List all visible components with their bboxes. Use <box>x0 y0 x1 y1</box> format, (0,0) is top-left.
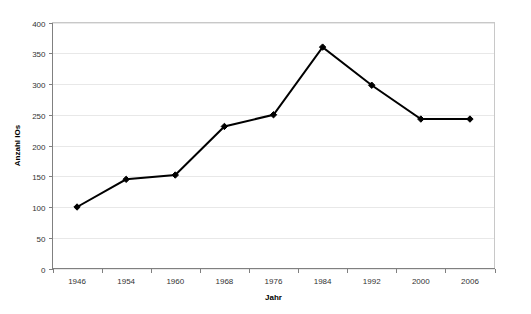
y-axis-tick-label: 300 <box>32 81 46 90</box>
x-axis-tick-label: 1984 <box>314 277 332 286</box>
x-axis-tick-label: 2000 <box>412 277 430 286</box>
y-axis-tick-label: 0 <box>41 266 46 275</box>
chart-background <box>0 0 531 314</box>
x-axis-title: Jahr <box>265 293 282 302</box>
y-axis-tick-label: 100 <box>32 204 46 213</box>
x-axis-tick-label: 1954 <box>117 277 135 286</box>
x-axis-tick-label: 1960 <box>166 277 184 286</box>
y-axis-tick-label: 350 <box>32 50 46 59</box>
x-axis-tick-label: 2006 <box>461 277 479 286</box>
x-axis-tick-labels: 194619541960196819761984199220002006 <box>68 277 479 286</box>
y-axis-title: Anzahl IOs <box>13 124 22 166</box>
y-axis-tick-label: 250 <box>32 112 46 121</box>
x-axis-tick-label: 1976 <box>265 277 283 286</box>
x-axis-tick-label: 1968 <box>215 277 233 286</box>
y-axis-tick-label: 50 <box>37 235 46 244</box>
y-axis-tick-label: 200 <box>32 143 46 152</box>
line-chart: 050100150200250300350400 194619541960196… <box>0 0 531 314</box>
x-axis-tick-label: 1946 <box>68 277 86 286</box>
x-axis-tick-label: 1992 <box>363 277 381 286</box>
chart-container: 050100150200250300350400 194619541960196… <box>0 0 531 314</box>
y-axis-tick-label: 150 <box>32 173 46 182</box>
y-axis-tick-label: 400 <box>32 20 46 29</box>
